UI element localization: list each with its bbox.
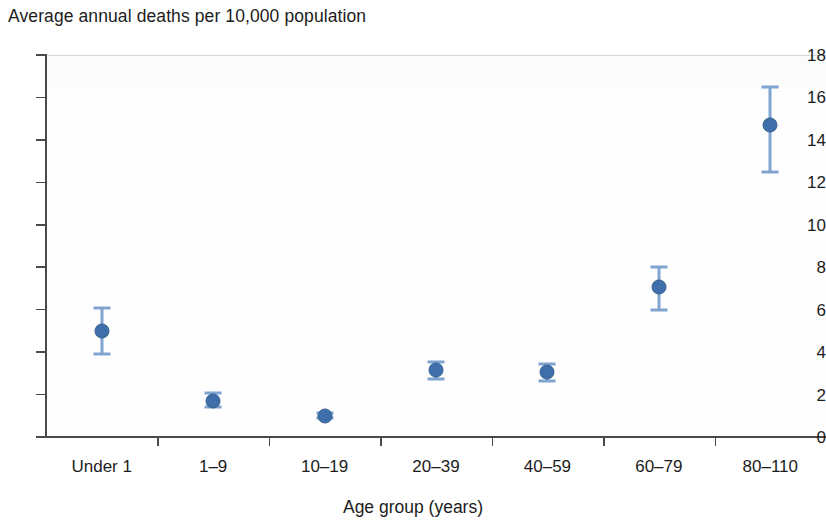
y-axis-tick-label: 16 xyxy=(792,89,826,106)
y-axis-tick-label: 6 xyxy=(792,301,826,318)
x-axis-tick-label: 20–39 xyxy=(412,458,459,477)
data-point-marker[interactable] xyxy=(540,365,555,380)
error-bar-cap-lower xyxy=(93,353,110,356)
x-axis-line xyxy=(45,436,826,438)
y-axis-tick xyxy=(36,436,45,438)
y-axis-tick-label: 2 xyxy=(792,386,826,403)
chart-container: Average annual deaths per 10,000 populat… xyxy=(0,0,826,526)
y-axis-tick xyxy=(36,97,45,99)
error-bar-cap-upper xyxy=(762,85,779,88)
y-axis-tick-label: 10 xyxy=(792,216,826,233)
y-axis-tick xyxy=(36,139,45,141)
data-point-marker[interactable] xyxy=(651,280,666,295)
y-axis-tick xyxy=(36,309,45,311)
data-point-marker[interactable] xyxy=(94,323,109,338)
x-axis-tick-label: 10–19 xyxy=(301,458,348,477)
x-axis-tick xyxy=(269,437,271,446)
x-axis-tick-label: 1–9 xyxy=(199,458,227,477)
y-axis-tick xyxy=(36,266,45,268)
x-axis-tick xyxy=(380,437,382,446)
y-axis-tick-label: 4 xyxy=(792,344,826,361)
x-axis-tick-label: Under 1 xyxy=(71,458,131,477)
x-axis-tick xyxy=(715,437,717,446)
error-bar-cap-lower xyxy=(650,308,667,311)
y-axis-tick-label: 18 xyxy=(792,47,826,64)
x-axis-tick-label: 60–79 xyxy=(635,458,682,477)
y-axis-tick xyxy=(36,54,45,56)
x-axis-tick xyxy=(157,437,159,446)
error-bar-cap-upper xyxy=(93,306,110,309)
y-axis-tick xyxy=(36,224,45,226)
data-point-marker[interactable] xyxy=(317,408,332,423)
data-point-marker[interactable] xyxy=(429,363,444,378)
x-axis-title: Age group (years) xyxy=(0,497,826,518)
x-axis-tick-label: 80–110 xyxy=(743,458,798,477)
error-bar-cap-upper xyxy=(650,266,667,269)
y-axis-tick xyxy=(36,351,45,353)
x-axis-tick xyxy=(492,437,494,446)
y-axis-line xyxy=(45,54,47,438)
x-axis-tick-label: 40–59 xyxy=(524,458,571,477)
data-point-marker[interactable] xyxy=(763,118,778,133)
y-axis-tick-label: 8 xyxy=(792,259,826,276)
y-axis-tick-label: 0 xyxy=(792,429,826,446)
y-axis-tick xyxy=(36,182,45,184)
error-bar-cap-lower xyxy=(762,170,779,173)
chart-title: Average annual deaths per 10,000 populat… xyxy=(8,6,366,27)
x-axis-tick xyxy=(603,437,605,446)
data-point-marker[interactable] xyxy=(206,393,221,408)
y-axis-tick xyxy=(36,394,45,396)
y-axis-tick-label: 12 xyxy=(792,174,826,191)
y-axis-tick-label: 14 xyxy=(792,131,826,148)
